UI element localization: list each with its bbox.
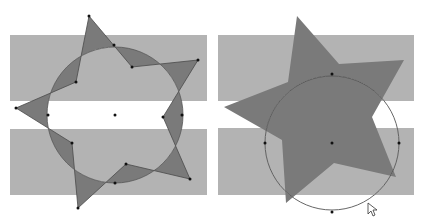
vertex-point[interactable] — [75, 81, 78, 84]
vertex-point[interactable] — [331, 73, 334, 76]
vertex-point[interactable] — [398, 142, 401, 145]
vertex-point[interactable] — [47, 114, 50, 117]
vertex-point[interactable] — [114, 114, 117, 117]
vertex-point[interactable] — [71, 142, 74, 145]
vertex-point[interactable] — [125, 163, 128, 166]
vertex-point[interactable] — [181, 114, 184, 117]
vertex-point[interactable] — [113, 44, 116, 47]
diagram-canvas — [0, 0, 423, 221]
vertex-point[interactable] — [331, 211, 334, 214]
vertex-point[interactable] — [331, 142, 334, 145]
mouse-cursor-icon — [368, 203, 377, 216]
vertex-point[interactable] — [162, 116, 165, 119]
vertex-point[interactable] — [15, 107, 18, 110]
vertex-point[interactable] — [131, 66, 134, 69]
vertex-point[interactable] — [88, 15, 91, 18]
vertex-point[interactable] — [189, 178, 192, 181]
vertex-point[interactable] — [264, 142, 267, 145]
vertex-point[interactable] — [197, 59, 200, 62]
vertex-point[interactable] — [77, 207, 80, 210]
vertex-point[interactable] — [114, 182, 117, 185]
